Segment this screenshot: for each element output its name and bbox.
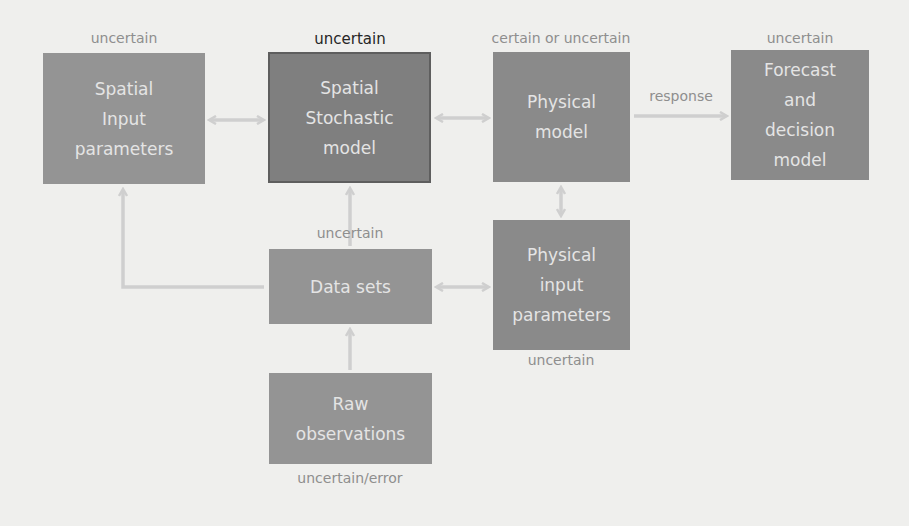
status-label-spatial-input: uncertain — [91, 30, 158, 46]
node-forecast-decision-model: Forecast and decision model — [731, 50, 869, 180]
status-label-data-sets: uncertain — [317, 225, 384, 241]
edge-label-response: response — [649, 88, 713, 104]
node-spatial-stochastic-model: Spatial Stochastic model — [268, 52, 431, 183]
status-label-spatial-stochastic: uncertain — [314, 30, 385, 48]
status-label-physical-model: certain or uncertain — [492, 30, 631, 46]
node-raw-observations: Raw observations — [269, 373, 432, 464]
arrow-datasets-spatialinput — [123, 190, 264, 287]
node-physical-model: Physical model — [493, 52, 630, 182]
status-label-forecast: uncertain — [767, 30, 834, 46]
node-data-sets: Data sets — [269, 249, 432, 324]
node-physical-input-parameters: Physical input parameters — [493, 220, 630, 350]
node-spatial-input-parameters: Spatial Input parameters — [43, 53, 205, 184]
status-label-physical-input: uncertain — [528, 352, 595, 368]
status-label-raw-observations: uncertain/error — [297, 470, 402, 486]
